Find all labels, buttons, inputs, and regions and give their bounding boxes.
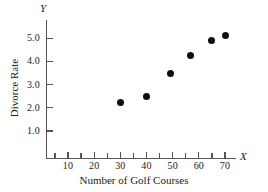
x-tick-major	[172, 152, 173, 158]
plot-area: 1.02.03.04.05.0 10203040506070 Y X Divor…	[0, 0, 268, 192]
x-tick-minor	[133, 153, 134, 157]
y-tick	[47, 61, 53, 62]
data-point	[143, 93, 150, 100]
y-axis-line	[46, 20, 47, 159]
scatter-plot-figure: 1.02.03.04.05.0 10203040506070 Y X Divor…	[0, 0, 268, 192]
data-point	[167, 70, 174, 77]
data-point	[117, 99, 124, 106]
x-axis-letter: X	[240, 150, 247, 162]
x-tick-major	[198, 152, 199, 158]
y-axis-title: Divorce Rate	[8, 33, 20, 143]
x-tick-minor	[185, 153, 186, 157]
y-axis-letter: Y	[40, 2, 46, 14]
x-tick-minor	[54, 153, 55, 157]
data-point	[187, 52, 194, 59]
data-point	[222, 32, 229, 39]
data-point	[208, 37, 215, 44]
x-tick-label: 70	[210, 160, 240, 171]
x-tick-minor	[159, 153, 160, 157]
x-tick-major	[224, 152, 225, 158]
x-axis-title: Number of Golf Courses	[0, 174, 268, 186]
x-tick-major	[146, 152, 147, 158]
x-axis-line	[46, 158, 236, 159]
x-tick-minor	[80, 153, 81, 157]
x-tick-major	[94, 152, 95, 158]
x-tick-major	[67, 152, 68, 158]
x-tick-minor	[211, 153, 212, 157]
y-tick	[47, 84, 53, 85]
y-tick	[47, 130, 53, 131]
x-tick-minor	[107, 153, 108, 157]
y-tick	[47, 107, 53, 108]
x-tick-major	[120, 152, 121, 158]
y-tick	[47, 38, 53, 39]
